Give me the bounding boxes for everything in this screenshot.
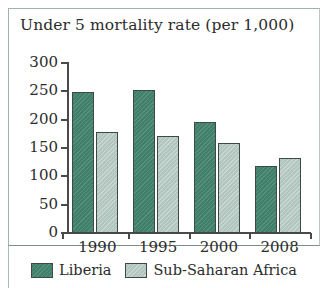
x-axis-tick (62, 233, 64, 239)
bar-sub-saharan-africa-2008 (279, 158, 301, 233)
bar-sub-saharan-africa-2000 (218, 143, 240, 233)
x-axis-label-1990: 1990 (67, 238, 128, 256)
bar-liberia-1990 (72, 92, 94, 233)
y-axis-tick-label: 150 (14, 140, 58, 155)
y-axis-tick (61, 62, 67, 64)
x-axis-tick (310, 233, 312, 239)
bar-group (67, 63, 128, 233)
y-axis-tick-labels: 050100150200250300 (10, 0, 58, 288)
y-axis-tick-label: 0 (14, 225, 58, 240)
y-axis-tick (61, 175, 67, 177)
legend-item-liberia: Liberia (31, 262, 111, 278)
y-axis-tick (61, 90, 67, 92)
x-axis-label-1995: 1995 (128, 238, 189, 256)
legend-label: Liberia (59, 262, 111, 278)
bar-group (128, 63, 189, 233)
y-axis-tick-label: 100 (14, 168, 58, 183)
y-axis-tick (61, 147, 67, 149)
y-axis-tick-label: 50 (14, 197, 58, 212)
bar-sub-saharan-africa-1990 (96, 132, 118, 233)
y-axis-tick-label: 250 (14, 83, 58, 98)
y-axis-tick-label: 200 (14, 112, 58, 127)
bar-liberia-2008 (255, 166, 277, 233)
legend-swatch-icon (125, 263, 147, 278)
legend-swatch-icon (31, 263, 53, 278)
chart-title: Under 5 mortality rate (per 1,000) (20, 16, 294, 34)
y-axis-tick (61, 204, 67, 206)
x-axis-label-2008: 2008 (249, 238, 310, 256)
y-axis-tick (61, 119, 67, 121)
chart-legend: LiberiaSub-Saharan Africa (0, 262, 328, 278)
bar-group (249, 63, 310, 233)
legend-label: Sub-Saharan Africa (153, 262, 296, 278)
x-axis-label-2000: 2000 (189, 238, 250, 256)
bar-liberia-2000 (194, 122, 216, 233)
y-axis-tick-label: 300 (14, 55, 58, 70)
bar-liberia-1995 (133, 90, 155, 233)
bar-sub-saharan-africa-1995 (157, 136, 179, 233)
bar-group (189, 63, 250, 233)
plot-area (67, 63, 310, 233)
legend-item-sub-saharan-africa: Sub-Saharan Africa (125, 262, 296, 278)
